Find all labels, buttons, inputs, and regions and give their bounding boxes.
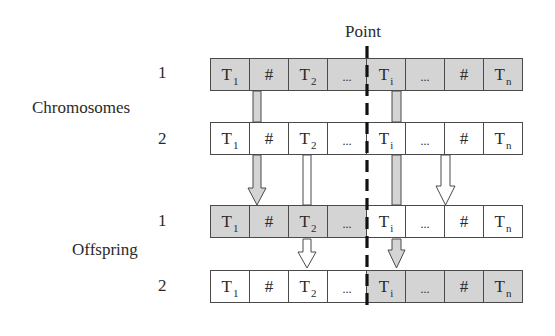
white-arrow-left-icon: [298, 155, 316, 268]
gray-arrow-left-icon: [248, 91, 266, 205]
white-arrow-right-icon: [436, 155, 455, 205]
gray-arrow-right-icon: [388, 91, 405, 268]
arrows-and-cut-line: [0, 0, 555, 336]
crossover-diagram: Point Chromosomes Offspring 1 2 1 2 T1 #…: [0, 0, 555, 336]
